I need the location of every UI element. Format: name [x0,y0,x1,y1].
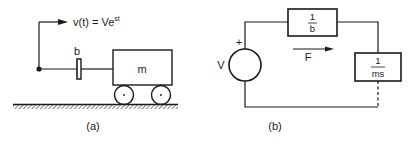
current-label: F [305,51,312,63]
source-polarity-plus: + [236,36,242,48]
mass-label: m [137,63,146,75]
arrowhead-icon [58,19,68,25]
impedance-1-denominator: b [310,23,315,34]
impedance-2-denominator: ms [372,68,385,79]
ground-icon [13,105,178,110]
current-arrow-icon [293,47,334,52]
impedance-1-numerator: 1 [310,11,315,22]
velocity-label: v(t) = Vest [73,15,120,28]
circuit-wires [245,22,378,107]
wheel-left-icon [115,86,134,105]
wheel-right-icon [152,86,171,105]
source-label: V [217,59,225,71]
velocity-input-arrow [36,19,68,72]
diagram-canvas: v(t) = Vest b m (a) [0,0,411,144]
figure-b-circuit: + V 1 b F 1 ms (b) [217,9,401,132]
caption-a: (a) [86,120,99,132]
damper-icon [76,59,81,79]
caption-b: (b) [268,120,281,132]
voltage-source-icon [229,49,261,81]
impedance-2-numerator: 1 [375,55,380,66]
damper-label: b [74,45,80,57]
figure-a-mechanical-system: v(t) = Vest b m (a) [13,15,178,132]
